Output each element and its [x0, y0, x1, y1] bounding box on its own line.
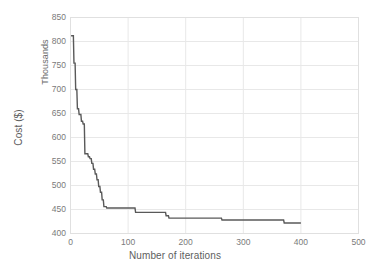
plot-area [0, 0, 379, 271]
plot-frame [71, 18, 359, 234]
gridlines [71, 18, 359, 234]
line-chart: Cost ($) Thousands Number of iterations … [0, 0, 379, 271]
